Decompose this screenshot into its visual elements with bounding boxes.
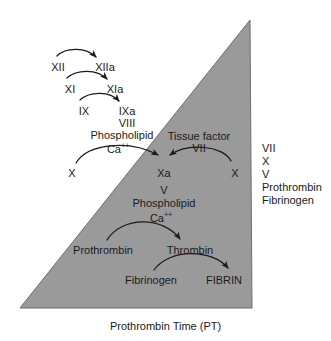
label-factor-xi: XI: [65, 84, 75, 95]
label-intrinsic-calcium-charge: ++: [121, 141, 129, 150]
pt-list-item-vii: VII: [262, 142, 275, 154]
label-intrinsic-calcium: Ca++: [107, 142, 129, 155]
label-fibrinogen: Fibrinogen: [125, 275, 177, 286]
label-tissue-factor: Tissue factor: [168, 131, 231, 142]
label-factor-ix: IX: [79, 106, 89, 117]
label-extrinsic-factor-x: X: [231, 168, 238, 179]
label-factor-ixa: IXa: [119, 106, 136, 117]
label-common-calcium-charge: ++: [164, 210, 172, 219]
pt-list-item-fibrinogen: Fibrinogen: [262, 194, 314, 206]
label-common-calcium: Ca++: [150, 211, 172, 224]
label-intrinsic-phospholipid: Phospholipid: [91, 130, 154, 141]
label-factor-v: V: [160, 185, 167, 196]
arrow-xii-to-xiia: [57, 49, 96, 57]
label-factor-xiia: XIIa: [95, 62, 115, 73]
label-intrinsic-calcium-text: Ca: [107, 143, 121, 155]
pt-list-item-prothrombin: Prothrombin: [262, 181, 322, 193]
label-prothrombin: Prothrombin: [73, 245, 133, 256]
label-intrinsic-factor-x: X: [68, 168, 75, 179]
label-factor-vii: VII: [192, 143, 205, 154]
label-factor-xia: XIa: [107, 84, 124, 95]
label-factor-xii: XII: [51, 62, 64, 73]
label-factor-viii: VIII: [119, 118, 136, 129]
label-fibrin: FIBRIN: [206, 275, 242, 286]
label-factor-xa: Xa: [157, 168, 170, 179]
label-common-calcium-text: Ca: [150, 212, 164, 224]
coagulation-cascade-figure: XII XIIa XI XIa IX IXa VIII Phospholipid…: [0, 0, 331, 341]
label-thrombin: Thrombin: [167, 245, 213, 256]
label-common-phospholipid: Phospholipid: [133, 198, 196, 209]
pt-list-item-v: V: [262, 168, 269, 180]
pt-list-item-x: X: [262, 155, 269, 167]
figure-caption: Prothrombin Time (PT): [0, 320, 331, 332]
